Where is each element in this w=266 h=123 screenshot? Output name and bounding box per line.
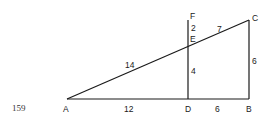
length-cb: 6 bbox=[252, 56, 257, 66]
label-d: D bbox=[185, 104, 191, 114]
label-a: A bbox=[63, 104, 69, 114]
length-db: 6 bbox=[215, 104, 220, 114]
label-b: B bbox=[246, 104, 252, 114]
label-e: E bbox=[190, 34, 196, 44]
length-ae: 14 bbox=[125, 60, 135, 70]
length-ec: 7 bbox=[217, 24, 222, 34]
length-fe: 2 bbox=[191, 23, 196, 33]
geometry-diagram: A D B C F E 14 7 2 4 6 12 6 159 bbox=[0, 0, 266, 123]
length-ed: 4 bbox=[191, 66, 196, 76]
length-ad: 12 bbox=[124, 104, 134, 114]
label-c: C bbox=[252, 13, 258, 23]
label-f: F bbox=[190, 11, 195, 21]
figure-number: 159 bbox=[12, 103, 26, 113]
